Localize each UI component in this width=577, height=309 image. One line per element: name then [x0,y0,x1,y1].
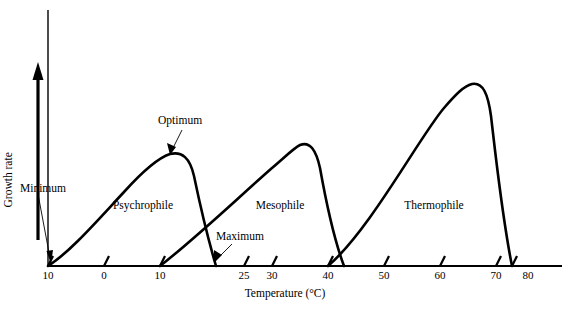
chart-plot-area [0,0,577,309]
curve-label-mesophile: Mesophile [256,200,305,212]
x-tick-label: 80 [523,270,534,281]
growth-rate-temperature-figure: Growth rate Temperature (°C) 10 0 10 25 … [0,0,577,309]
annotation-maximum: Maximum [216,231,264,243]
curve-label-thermophile: Thermophile [404,200,463,212]
x-axis-ticks [48,256,517,266]
x-tick-label: 40 [323,270,334,281]
curve-label-psychrophile: Psychrophile [113,200,173,212]
thermophile-curve [328,84,512,266]
x-tick-label: 0 [101,270,107,281]
x-tick-label: 10 [155,270,166,281]
x-tick-label: 60 [435,270,446,281]
maximum-leader-line [214,244,232,263]
x-axis-label: Temperature (°C) [245,288,326,300]
x-tick-label: 10 [43,270,54,281]
minimum-leader-line [38,194,53,264]
annotation-optimum: Optimum [158,115,202,127]
x-tick-label: 70 [491,270,502,281]
annotation-minimum: Minimum [20,183,66,195]
x-tick-label: 30 [267,270,278,281]
optimum-leader-line [167,130,182,155]
x-tick-label: 50 [379,270,390,281]
y-axis-label: Growth rate [3,152,15,207]
x-tick-label: 25 [239,270,250,281]
